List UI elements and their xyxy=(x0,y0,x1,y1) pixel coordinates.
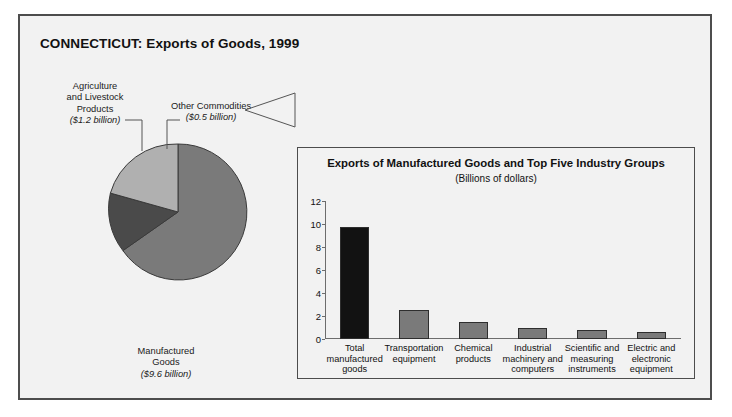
pie-chart-group: Agriculture and Livestock Products ($1.2… xyxy=(20,16,320,402)
y-axis-tick-label: 6 xyxy=(316,265,321,276)
callout-line-1: Agriculture xyxy=(73,81,117,91)
y-axis-tick-label: 10 xyxy=(310,219,321,230)
callout-line-1: Manufactured xyxy=(138,346,195,356)
callout-line-1: Other Commodities xyxy=(171,101,251,111)
callout-amount: ($1.2 billion) xyxy=(70,115,121,125)
y-axis-tick-label: 12 xyxy=(310,196,321,207)
y-axis-tick-label: 4 xyxy=(316,288,321,299)
pie-leader-lines xyxy=(20,16,320,402)
pie-callout-manufactured-goods: Manufactured Goods ($9.6 billion) xyxy=(110,346,222,380)
y-axis-tick-mark xyxy=(322,316,325,317)
bar-chart-subtitle: (Billions of dollars) xyxy=(298,173,694,184)
x-axis-category-label: Electric andelectronicequipment xyxy=(616,343,687,375)
pie-callout-agriculture: Agriculture and Livestock Products ($1.2… xyxy=(52,81,138,127)
bar-chart-panel: Exports of Manufactured Goods and Top Fi… xyxy=(297,147,695,379)
bar-4 xyxy=(577,330,607,339)
y-axis-tick-label: 2 xyxy=(316,311,321,322)
y-axis-tick-mark xyxy=(322,224,325,225)
callout-line-3: Products xyxy=(77,104,114,114)
callout-line-2: Goods xyxy=(152,357,179,367)
callout-line-2: and Livestock xyxy=(67,92,124,102)
y-axis-tick-label: 8 xyxy=(316,242,321,253)
bar-1 xyxy=(399,310,429,339)
bar-0 xyxy=(340,227,370,339)
pie-to-panel-connector xyxy=(245,90,305,130)
y-axis-tick-mark xyxy=(322,270,325,271)
callout-amount: ($0.5 billion) xyxy=(186,112,237,122)
callout-amount: ($9.6 billion) xyxy=(141,369,192,379)
bar-chart-axes xyxy=(325,201,681,339)
y-axis-tick-mark xyxy=(322,293,325,294)
bar-chart-plot-area: 024681012TotalmanufacturedgoodsTransport… xyxy=(325,201,681,339)
bar-5 xyxy=(637,332,667,339)
y-axis-tick-mark xyxy=(322,339,325,340)
bar-2 xyxy=(459,322,489,339)
figure-frame: CONNECTICUT: Exports of Goods, 1999 Agri… xyxy=(18,14,712,400)
bar-3 xyxy=(518,328,548,340)
y-axis-tick-mark xyxy=(322,247,325,248)
y-axis-tick-mark xyxy=(322,201,325,202)
bar-chart-title: Exports of Manufactured Goods and Top Fi… xyxy=(298,157,694,169)
